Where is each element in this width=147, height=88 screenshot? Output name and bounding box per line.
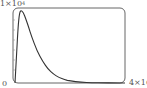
data-curve <box>15 11 125 83</box>
plot-frame <box>13 8 125 83</box>
plot-area <box>0 0 147 88</box>
